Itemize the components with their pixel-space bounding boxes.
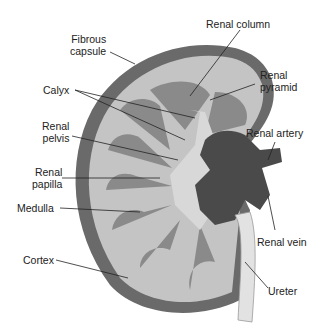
label-ureter: Ureter bbox=[268, 285, 297, 297]
label-line: papilla bbox=[32, 178, 62, 190]
label-line: capsule bbox=[70, 45, 106, 57]
label-renal-column: Renal column bbox=[206, 18, 270, 30]
label-line: Renal bbox=[32, 166, 62, 178]
label-renal-pyramid: Renal pyramid bbox=[260, 69, 297, 93]
label-medulla: Medulla bbox=[17, 202, 54, 214]
label-line: Renal bbox=[260, 69, 297, 81]
label-calyx: Calyx bbox=[43, 84, 69, 96]
label-fibrous-capsule: Fibrous capsule bbox=[70, 33, 106, 57]
label-line: Renal bbox=[42, 120, 69, 132]
label-line: pelvis bbox=[42, 132, 69, 144]
label-renal-papilla: Renal papilla bbox=[32, 166, 62, 190]
label-line: Fibrous bbox=[70, 33, 106, 45]
label-line: pyramid bbox=[260, 81, 297, 93]
label-renal-artery: Renal artery bbox=[246, 127, 303, 139]
vessels-shape bbox=[195, 131, 282, 225]
label-cortex: Cortex bbox=[23, 254, 54, 266]
label-renal-pelvis: Renal pelvis bbox=[42, 120, 69, 144]
label-renal-vein: Renal vein bbox=[257, 236, 307, 248]
